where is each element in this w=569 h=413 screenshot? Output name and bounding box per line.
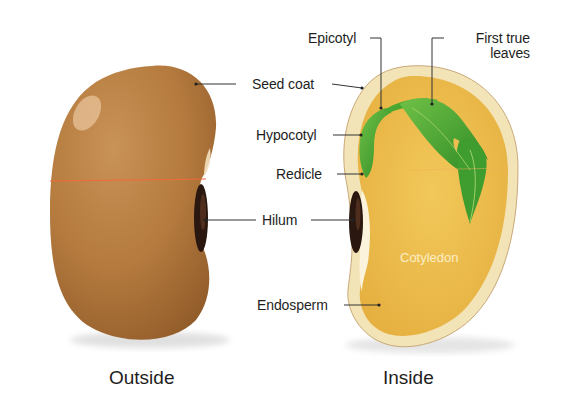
label-hilum: Hilum (262, 213, 297, 228)
label-epicotyl: Epicotyl (308, 31, 356, 46)
label-first-true-leaves-line2: leaves (446, 46, 530, 61)
label-seed-coat: Seed coat (252, 77, 314, 92)
label-first-true-leaves: First true leaves (446, 31, 530, 61)
caption-inside: Inside (383, 367, 434, 389)
label-endosperm: Endosperm (257, 298, 328, 313)
diagram-artwork (0, 0, 569, 413)
label-first-true-leaves-line1: First true (446, 31, 530, 46)
label-hypocotyl: Hypocotyl (256, 128, 317, 143)
outside-seed-body (50, 66, 216, 340)
inside-seed (344, 66, 518, 353)
outside-seed (50, 66, 230, 348)
caption-outside: Outside (109, 367, 174, 389)
label-cotyledon: Cotyledon (400, 250, 459, 265)
bean-seed-diagram: Epicotyl First true leaves Seed coat Hyp… (0, 0, 569, 413)
label-redicle: Redicle (276, 167, 322, 182)
